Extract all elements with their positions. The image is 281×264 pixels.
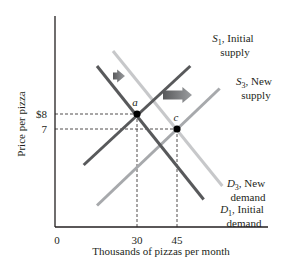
- equilibrium-label-a: a: [132, 96, 138, 108]
- curve-label-D3: D3, New: [226, 177, 265, 192]
- curve-label-D1: D1, Initial: [219, 203, 264, 218]
- equilibrium-point-a: [133, 110, 140, 117]
- curve-label-D1-line2: demand: [227, 217, 262, 229]
- x-axis-label: Thousands of pizzas per month: [92, 245, 230, 257]
- equilibrium-label-c: c: [174, 111, 179, 123]
- demand-shift-arrow-icon: [113, 70, 125, 83]
- curve-D3: [113, 51, 222, 186]
- equilibrium-point-c: [173, 125, 180, 132]
- curve-D1: [97, 66, 204, 200]
- y-tick-label: 7: [42, 123, 48, 135]
- curve-label-S1: S1, Initial: [212, 32, 253, 47]
- curve-label-S1-line2: supply: [220, 46, 250, 58]
- supply-shift-arrow-icon: [163, 87, 192, 103]
- y-axis-label: Price per pizza: [15, 91, 27, 156]
- x-tick-label: 0: [54, 234, 60, 246]
- supply-demand-chart: ac 03045$87 Thousands of pizzas per mont…: [0, 0, 281, 264]
- curve-label-S3: S3, New: [236, 75, 272, 90]
- y-tick-label: $8: [36, 108, 48, 120]
- curve-label-D3-line2: demand: [231, 191, 266, 203]
- curve-label-S3-line2: supply: [241, 89, 271, 101]
